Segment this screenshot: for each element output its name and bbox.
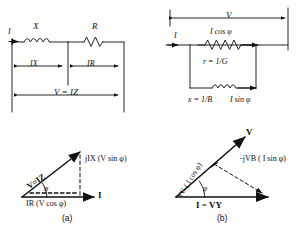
phasor-a-jIX-label: jIX (V sin φ) xyxy=(85,155,127,163)
drop-IR-label: IR xyxy=(87,60,95,68)
inductor-x-symbol xyxy=(212,85,236,88)
resistor-R-symbol xyxy=(84,37,103,46)
phasor-a-axis-label: I xyxy=(98,191,102,200)
phasor-b-axis-label: I = VY xyxy=(196,201,222,210)
caption-b: (b) xyxy=(217,214,227,223)
phasor-a-phi-label: φ xyxy=(44,185,48,193)
branch-r-value-label: r = 1/G xyxy=(203,58,228,66)
phasor-b-VB-label: -jVB ( I sin φ) xyxy=(240,155,286,163)
total-voltage-label: V = IZ xyxy=(54,88,78,97)
figure-linework xyxy=(0,0,305,230)
phasor-b-V-label: V xyxy=(246,128,253,137)
parallel-current-label: I xyxy=(174,32,177,40)
series-current-label: I xyxy=(8,28,11,36)
engineering-figure: I X R IX IR V = IZ V I cos φ I r = 1/G x… xyxy=(0,0,305,230)
branch-current-sin-label: I sin φ xyxy=(230,96,250,104)
phasor-a-IR-label: IR (V cos φ) xyxy=(26,200,66,208)
drop-IX-label: IX xyxy=(30,60,38,68)
inductor-X-symbol xyxy=(24,39,50,43)
parallel-voltage-label: V xyxy=(226,11,232,20)
reactance-X-label: X xyxy=(33,22,39,31)
caption-a: (a) xyxy=(62,214,72,223)
phasor-b-component-VB xyxy=(214,164,262,193)
phasor-b-phi-label: φ xyxy=(203,185,207,193)
resistance-R-label: R xyxy=(92,22,98,31)
branch-x-value-label: x = 1/B xyxy=(188,96,212,104)
branch-current-cos-label: I cos φ xyxy=(210,28,232,36)
